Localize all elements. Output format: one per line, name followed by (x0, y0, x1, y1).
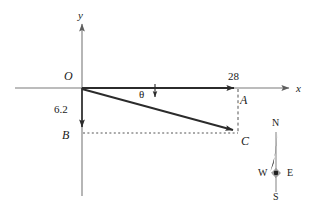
x-axis-label: x (296, 83, 301, 94)
compass-north-label: N (272, 118, 279, 128)
vector-diagram-figure: x y O 28 A 6.2 B C θ N S E W (0, 0, 315, 218)
point-b-label: B (62, 129, 69, 141)
point-c-label: C (241, 135, 249, 147)
y-magnitude-label: 6.2 (54, 104, 68, 115)
compass-east-label: E (287, 168, 293, 178)
diagram-canvas (0, 0, 315, 218)
vector-oc (82, 89, 233, 130)
x-magnitude-label: 28 (228, 71, 239, 82)
origin-label: O (64, 70, 73, 82)
compass-west-label: W (258, 168, 267, 178)
compass-center-dot (274, 171, 279, 176)
compass-south-label: S (273, 192, 279, 202)
y-axis-label: y (78, 10, 83, 21)
compass-rose (270, 132, 280, 192)
angle-theta-label: θ (139, 89, 144, 100)
point-a-label: A (240, 94, 247, 106)
